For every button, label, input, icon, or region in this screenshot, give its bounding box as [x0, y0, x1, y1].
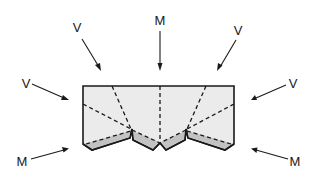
arrow-top-left: [82, 39, 99, 67]
label-top-center-m: M: [155, 13, 166, 28]
arrowhead-bottom-right: [251, 148, 258, 154]
arrowhead-top-center: [158, 63, 163, 71]
arrow-top-right: [220, 40, 236, 67]
arrow-bottom-right: [256, 150, 288, 159]
label-top-left-v: V: [73, 20, 82, 35]
fold-diagram: V M V V V M M: [0, 0, 317, 180]
arrow-right: [256, 85, 286, 98]
arrowhead-bottom-left: [62, 147, 69, 153]
arrowhead-left: [61, 95, 69, 100]
label-top-right-v: V: [234, 23, 243, 38]
arrowhead-top-left: [95, 63, 101, 71]
label-bottom-right-m: M: [290, 154, 301, 169]
label-left-v: V: [22, 76, 31, 91]
label-right-v: V: [289, 76, 298, 91]
arrow-bottom-left: [31, 150, 64, 159]
label-bottom-left-m: M: [17, 154, 28, 169]
arrow-left: [32, 84, 64, 98]
